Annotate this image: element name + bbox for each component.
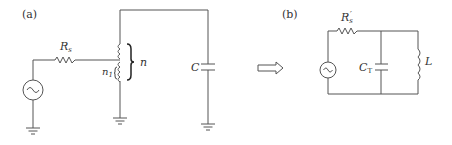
ac-source-icon [23, 80, 43, 100]
ground-icon [113, 118, 127, 124]
inductor-l-icon [418, 49, 420, 80]
resistor-rs-label: Rs [59, 40, 72, 54]
ac-source-icon [320, 62, 336, 78]
coil-n-label: n [140, 56, 147, 69]
inductor-l-label: L [424, 55, 432, 68]
capacitor-c-label: C [191, 61, 200, 74]
brace-n-icon [127, 44, 134, 80]
panel-b-label: (b) [282, 8, 298, 21]
capacitor-c-icon [201, 64, 215, 70]
resistor-rs [55, 57, 75, 63]
tapped-inductor-icon [118, 44, 120, 82]
ground-icon [26, 128, 40, 134]
brace-n1-icon [114, 67, 117, 79]
panel-b-wiring [328, 31, 418, 94]
panel-a-label: (a) [22, 8, 37, 21]
ground-icon [201, 124, 215, 130]
transform-arrow-icon [258, 62, 283, 74]
capacitor-ct-label: CT [359, 61, 372, 75]
resistor-rs-prime-label: Rs′ [340, 9, 353, 25]
tap-n1-label: n1 [102, 66, 113, 79]
circuit-diagram: (a) Rs n n1 C (b) [0, 0, 452, 145]
capacitor-ct-icon [375, 64, 388, 70]
panel-a-wiring [33, 10, 208, 128]
resistor-rs-prime [337, 28, 357, 34]
